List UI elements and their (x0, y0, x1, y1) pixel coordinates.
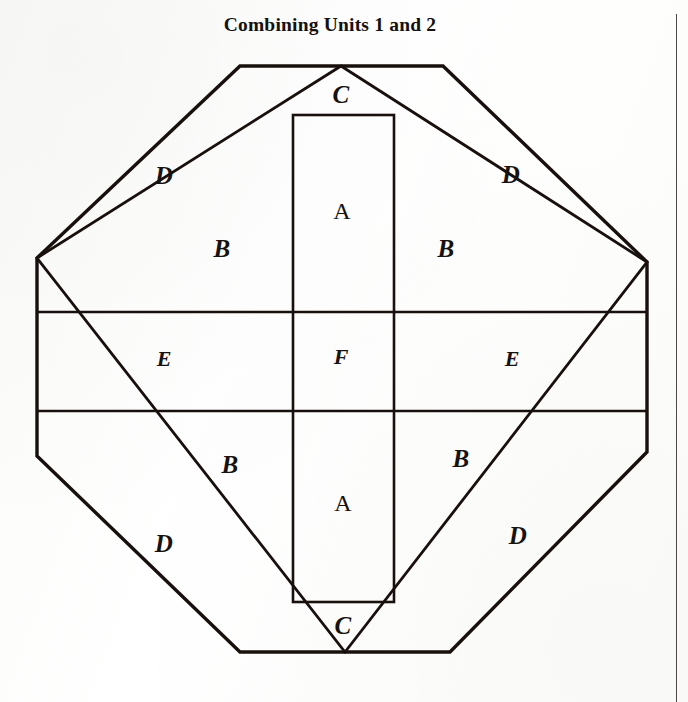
figure-page: Combining Units 1 and 2 CDDABBEFEBBADDC (0, 0, 688, 702)
label-d-bottom-right: D (509, 522, 528, 550)
label-e-right: E (505, 346, 520, 372)
label-c-bottom: C (334, 612, 351, 640)
label-b-top-right: B (437, 235, 454, 263)
label-e-left: E (157, 346, 172, 372)
label-a-bottom: A (334, 490, 351, 517)
label-c-top: C (332, 81, 349, 109)
label-b-top-left: B (213, 235, 230, 263)
label-d-top-right: D (502, 161, 521, 189)
label-a-top: A (333, 198, 350, 225)
label-d-bottom-left: D (155, 530, 174, 558)
label-f-center: F (334, 344, 349, 370)
label-b-bottom-right: B (452, 445, 469, 473)
label-d-top-left: D (155, 162, 174, 190)
label-b-bottom-left: B (221, 451, 238, 479)
